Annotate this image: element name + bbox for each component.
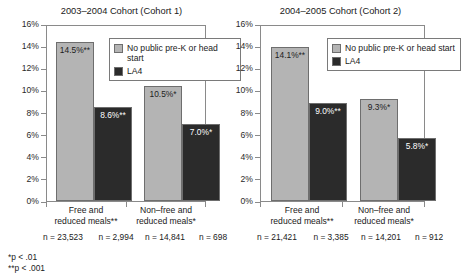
category-line-1: Free and: [69, 205, 103, 215]
legend-label: LA4: [127, 66, 142, 76]
category-label-nonfree-reduced: Non–free and reduced meals*: [126, 205, 206, 226]
y-tick-label: 4%: [241, 152, 253, 162]
panel-container: 2003–2004 Cohort (Cohort 1) 16% 14% 12% …: [0, 0, 438, 250]
legend-swatch-dark-icon: [114, 67, 123, 76]
footnotes: *p < .01 **p < .001: [8, 252, 45, 273]
sample-size-value: n = 912: [406, 232, 452, 242]
bar-cohort2-nonfree-nopre-k[interactable]: 9.3%*: [360, 99, 398, 201]
y-tick-label: 16%: [236, 19, 253, 29]
bar-cohort2-free-nopre-k[interactable]: 14.1%**: [271, 47, 309, 201]
bar-cohort1-free-la4[interactable]: 8.6%**: [94, 107, 132, 201]
y-tick-label: 14%: [22, 41, 39, 51]
y-tick-label: 8%: [27, 108, 39, 118]
category-label-nonfree-reduced: Non–free and reduced meals*: [343, 205, 425, 226]
category-line-2: reduced meals*: [354, 216, 414, 226]
footnote-p001: **p < .001: [8, 263, 45, 274]
y-tick-label: 6%: [27, 130, 39, 140]
category-line-1: Non–free and: [140, 205, 192, 215]
category-line-2: reduced meals**: [270, 216, 333, 226]
bar-value-label: 14.1%**: [272, 50, 308, 60]
sample-size-value: n = 14,841: [137, 232, 193, 242]
bar-cohort2-free-la4[interactable]: 9.0%**: [309, 103, 347, 201]
legend-item-no-public-pre-k: No public pre-K or head start: [114, 43, 235, 63]
y-tick-label: 0%: [27, 196, 39, 206]
panel-cohort-1: 2003–2004 Cohort (Cohort 1) 16% 14% 12% …: [0, 0, 219, 250]
legend-swatch-light-icon: [114, 44, 123, 53]
bar-value-label: 7.0%*: [183, 127, 219, 137]
category-line-1: Non–free and: [358, 205, 410, 215]
y-tick-label: 12%: [22, 63, 39, 73]
y-tick-label: 2%: [241, 174, 253, 184]
bar-cohort1-free-nopre-k[interactable]: 14.5%**: [56, 42, 94, 201]
legend-label: No public pre-K or head start: [345, 43, 455, 53]
y-tick-label: 0%: [241, 196, 253, 206]
y-tick-label: 6%: [241, 130, 253, 140]
bar-value-label: 10.5%*: [145, 89, 181, 99]
legend-swatch-light-icon: [332, 44, 341, 53]
panel-2-legend: No public pre-K or head start LA4: [327, 38, 461, 71]
legend-item-la4: LA4: [114, 66, 235, 76]
y-tick-label: 16%: [22, 19, 39, 29]
category-label-free-reduced: Free and reduced meals**: [46, 205, 126, 226]
bar-value-label: 9.0%**: [310, 106, 346, 116]
sample-size-value: n = 14,201: [353, 232, 409, 242]
panel-cohort-2: 2004–2005 Cohort (Cohort 2) 16% 14% 12% …: [219, 0, 438, 250]
legend-item-la4: LA4: [332, 56, 455, 66]
bar-cohort1-nonfree-la4[interactable]: 7.0%*: [182, 124, 220, 201]
y-tick-label: 14%: [236, 41, 253, 51]
sample-size-value: n = 21,421: [249, 232, 305, 242]
sample-size-value: n = 23,523: [35, 232, 91, 242]
category-line-2: reduced meals*: [136, 216, 196, 226]
y-tick-label: 8%: [241, 108, 253, 118]
bar-cohort1-nonfree-nopre-k[interactable]: 10.5%*: [144, 86, 182, 201]
bar-value-label: 8.6%**: [95, 110, 131, 120]
bar-value-label: 5.8%*: [399, 141, 435, 151]
y-tick-label: 2%: [27, 174, 39, 184]
panel-2-plot-area: 14.1%** 9.0%** 9.3%* 5.8%* No pu: [260, 25, 425, 202]
bar-value-label: 14.5%**: [57, 45, 93, 55]
panel-1-y-axis: 16% 14% 12% 10% 8% 6% 4% 2% 0%: [0, 25, 46, 202]
sample-size-value: n = 3,385: [305, 232, 357, 242]
panel-2-title: 2004–2005 Cohort (Cohort 2): [247, 6, 434, 16]
y-tick-label: 12%: [236, 63, 253, 73]
sample-size-value: n = 2,994: [90, 232, 142, 242]
panel-1-plot-area: 14.5%** 8.6%** 10.5%* 7.0%*: [46, 25, 206, 202]
category-label-free-reduced: Free and reduced meals**: [261, 205, 343, 226]
panel-1-title: 2003–2004 Cohort (Cohort 1): [28, 6, 215, 16]
legend-swatch-dark-icon: [332, 57, 341, 66]
category-line-1: Free and: [285, 205, 319, 215]
bar-value-label: 9.3%*: [361, 102, 397, 112]
y-tick-label: 10%: [236, 85, 253, 95]
legend-label: LA4: [345, 56, 360, 66]
legend-item-no-public-pre-k: No public pre-K or head start: [332, 43, 455, 53]
bar-cohort2-nonfree-la4[interactable]: 5.8%*: [398, 138, 436, 201]
panel-2-y-axis: 16% 14% 12% 10% 8% 6% 4% 2% 0%: [219, 25, 260, 202]
footnote-p01: *p < .01: [8, 252, 45, 263]
y-tick-label: 10%: [22, 85, 39, 95]
category-line-2: reduced meals**: [54, 216, 117, 226]
y-tick-label: 4%: [27, 152, 39, 162]
